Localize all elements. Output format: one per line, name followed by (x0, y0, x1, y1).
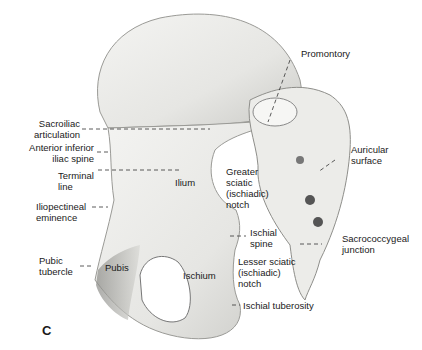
label-line: Auricular (351, 144, 389, 155)
label-line: sciatic (226, 177, 269, 188)
label-pubis: Pubis (105, 262, 129, 273)
label-line: spine (250, 238, 277, 249)
panel-letter: C (42, 325, 51, 336)
label-ilium: Ilium (175, 177, 195, 188)
label-sacroiliac-articulation: Sacroiliac articulation (20, 118, 80, 140)
label-auricular-surface: Auricular surface (351, 144, 389, 166)
label-line: eminence (36, 212, 86, 223)
label-line: Lesser sciatic (238, 256, 296, 267)
label-line: Greater (226, 166, 269, 177)
label-line: Sacrococcygeal (342, 233, 409, 244)
label-greater-sciatic-notch: Greater sciatic (ischiadic) notch (226, 166, 269, 210)
label-terminal-line: Terminal line (58, 170, 94, 192)
label-lesser-sciatic-notch: Lesser sciatic (ischiadic) notch (238, 256, 296, 289)
label-ischium: Ischium (183, 270, 216, 281)
label-line: (ischiadic) (238, 267, 296, 278)
label-line: (ischiadic) (226, 188, 269, 199)
label-line: Terminal (58, 170, 94, 181)
label-ischial-spine: Ischial spine (250, 227, 277, 249)
label-line: line (58, 181, 94, 192)
label-line: Anterior inferior (10, 142, 94, 153)
label-line: tubercle (39, 266, 73, 277)
label-sacrococcygeal-junction: Sacrococcygeal junction (342, 233, 409, 255)
label-line: iliac spine (10, 153, 94, 164)
label-iliopectineal-eminence: Iliopectineal eminence (36, 201, 86, 223)
label-line: Sacroiliac (20, 118, 80, 129)
label-line: Iliopectineal (36, 201, 86, 212)
label-line: articulation (20, 129, 80, 140)
label-line: notch (238, 278, 296, 289)
label-line: notch (226, 199, 269, 210)
label-pubic-tubercle: Pubic tubercle (39, 255, 73, 277)
label-line: Ischial (250, 227, 277, 238)
label-anterior-inferior-iliac-spine: Anterior inferior iliac spine (10, 142, 94, 164)
label-line: Pubic (39, 255, 73, 266)
label-ischial-tuberosity: Ischial tuberosity (243, 300, 314, 311)
label-promontory: Promontory (301, 48, 350, 59)
label-line: surface (351, 155, 389, 166)
label-line: junction (342, 244, 409, 255)
